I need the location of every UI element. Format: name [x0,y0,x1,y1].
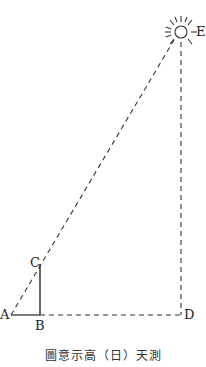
measurement-diagram [0,0,206,367]
point-label-d: D [184,308,194,321]
sun-icon [165,16,197,44]
point-label-a: A [0,308,9,321]
point-label-e: E [196,25,206,38]
diagram-caption: 圖意示高（日）天測 [0,346,206,363]
point-label-b: B [35,319,45,332]
point-label-c: C [30,256,40,269]
line-ae [11,40,174,315]
